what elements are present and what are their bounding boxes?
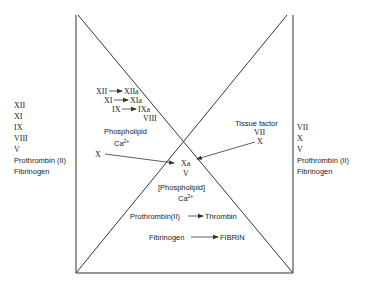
cascade-from: IX <box>112 105 121 114</box>
right-label: X <box>297 134 303 143</box>
left-label: Fibrinogen <box>14 167 49 176</box>
intrinsic-pathway: XII XIIa XI XIa IX IXa VIII Phospholipid… <box>95 87 174 163</box>
prothrombin-label: Prothrombin(II) <box>130 212 181 221</box>
right-label: V <box>297 145 303 154</box>
extrinsic-substrate-x: X <box>257 137 263 146</box>
cofactor-viii: VIII <box>143 114 157 123</box>
factor-v-label: V <box>183 169 189 178</box>
calcium-label: Ca2+ <box>114 138 129 148</box>
cascade-to: XIa <box>130 96 142 105</box>
cascade-to: IXa <box>138 105 150 114</box>
left-label: XI <box>14 112 23 121</box>
common-pathway: Xa V [Phospholipid] Ca2+ Prothrombin(II)… <box>130 159 245 242</box>
cascade-to: XIIa <box>124 87 139 96</box>
bracketed-phospholipid-label: [Phospholipid] <box>158 183 205 192</box>
intrinsic-activation-arrow <box>105 154 174 163</box>
thrombin-label: Thrombin <box>205 212 237 221</box>
tissue-factor-label: Tissue factor <box>235 119 278 128</box>
right-label: VII <box>297 123 308 132</box>
left-factor-list: XII XI IX VIII V Prothrombin (II) Fibrin… <box>14 101 67 176</box>
common-calcium-label: Ca2+ <box>178 193 193 203</box>
fibrinogen-label: Fibrinogen <box>149 233 184 242</box>
intrinsic-substrate-x: X <box>95 150 101 159</box>
cascade-from: XII <box>96 87 107 96</box>
right-factor-list: VII X V Prothrombin (II) Fibrinogen <box>297 123 350 176</box>
diagram-canvas: XII XI IX VIII V Prothrombin (II) Fibrin… <box>0 0 367 287</box>
extrinsic-pathway: Tissue factor VII X <box>197 119 278 159</box>
factor-vii-label: VII <box>254 128 265 137</box>
factor-xa-label: Xa <box>181 159 191 168</box>
phospholipid-label: Phospholipid <box>104 127 147 136</box>
left-label: V <box>14 145 20 154</box>
left-label: Prothrombin (II) <box>14 156 67 165</box>
fibrin-label: FIBRIN <box>220 233 245 242</box>
left-label: VIII <box>14 134 28 143</box>
cascade-from: XI <box>104 96 113 105</box>
left-label: XII <box>14 101 25 110</box>
right-label: Fibrinogen <box>297 167 332 176</box>
right-label: Prothrombin (II) <box>297 156 350 165</box>
extrinsic-activation-arrow <box>197 142 255 159</box>
left-label: IX <box>14 123 23 132</box>
coagulation-diagram: XII XI IX VIII V Prothrombin (II) Fibrin… <box>0 0 367 287</box>
